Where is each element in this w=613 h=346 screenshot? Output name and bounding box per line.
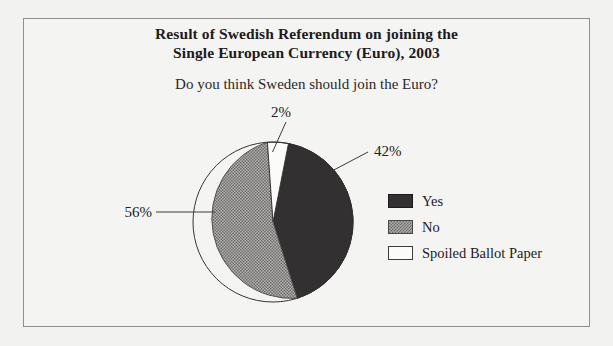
pie-label-no-percent: 56% bbox=[125, 204, 153, 220]
legend-item-spoiled-ballot-paper: Spoiled Ballot Paper bbox=[388, 240, 568, 266]
pie-chart-plot: 2% 42% 56% bbox=[0, 0, 613, 346]
legend-item-yes: Yes bbox=[388, 188, 568, 214]
pie-label-yes-percent: 42% bbox=[374, 143, 402, 159]
chart-figure: Result of Swedish Referendum on joining … bbox=[0, 0, 613, 346]
legend-label-spoiled-ballot-paper: Spoiled Ballot Paper bbox=[422, 245, 542, 261]
legend-item-no: No bbox=[388, 214, 568, 240]
legend-swatch-spoiled-ballot-paper-icon bbox=[388, 246, 413, 260]
pie-label-spoiled-percent: 2% bbox=[271, 104, 291, 120]
legend-swatch-no-icon bbox=[388, 220, 413, 234]
chart-legend: Yes No Spoiled Ballot Paper bbox=[388, 188, 568, 266]
leader-line-yes bbox=[330, 152, 368, 172]
legend-label-yes: Yes bbox=[422, 193, 443, 209]
legend-swatch-yes-icon bbox=[388, 194, 413, 208]
legend-label-no: No bbox=[422, 219, 440, 235]
